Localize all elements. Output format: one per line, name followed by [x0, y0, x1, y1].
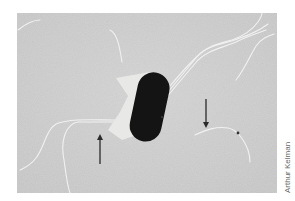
photo-credit: Arthur Kelman: [283, 142, 293, 193]
particle: [161, 116, 163, 118]
micrograph-photo: [17, 13, 277, 193]
particle: [237, 132, 240, 135]
micrograph-image: [17, 13, 277, 193]
